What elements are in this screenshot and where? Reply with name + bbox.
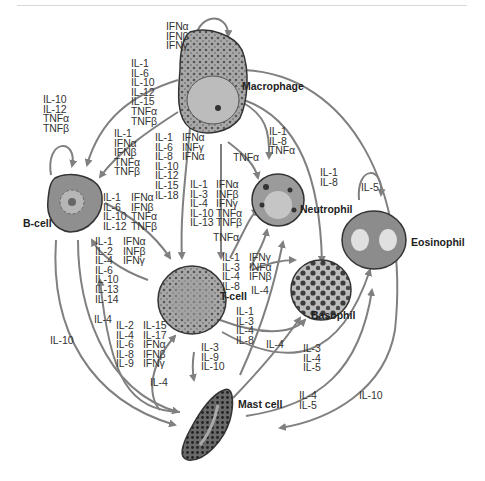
label-mac-to-basophil: IL-1 IL-8: [320, 168, 338, 187]
label-bcell-to-tcell-a: IL-1 IL-6 IL-10 IL-12: [103, 193, 126, 231]
label-mast-to-eos: IL-4 IL-5: [299, 391, 317, 410]
label-bcell-il4: IL-4: [94, 315, 112, 325]
neutrophil-cell: [252, 174, 304, 226]
label-tcell-to-neutrophil-a: IL-1 IL-3 IL-4 IL-10 IL-13: [190, 180, 213, 228]
label-tcell-to-bcell-a: IL-1 IL-2 IL-4 IL-6 IL-10 IL-13 IL-14: [95, 237, 118, 304]
label-tcell-to-neutrophil-b: IFNα INFβ IFNγ TNFα TNFβ: [216, 180, 242, 228]
label-tcell-to-basophil-b: IFNγ INFα IFNβ: [249, 253, 272, 282]
neutrophil-label: Neutrophil: [300, 203, 353, 215]
label-tcell-to-bcell-b: IFNα INFβ IFNγ: [123, 237, 146, 266]
bcell-label: B-cell: [23, 217, 52, 229]
label-tcell-il4: IL-4: [251, 286, 269, 296]
bcell-cell: [48, 175, 102, 232]
mast-cell: [182, 389, 232, 460]
label-mast-il4-a: IL-4: [266, 340, 284, 350]
arrow-bcell-self: [50, 146, 72, 175]
label-eos-to-mast: IL-10: [359, 391, 382, 401]
label-mac-long: IL-1 IL-6 IL-10 IL-12 IL-15 TNFα TNFβ: [131, 59, 157, 126]
label-tcell-to-eos: IL-3 IL-4 IL-5: [303, 344, 321, 373]
label-mac-to-bcell: IL-1 IFNα IFNβ TNFα TNFβ: [114, 129, 140, 177]
label-mast-il4-b: IL-4: [150, 378, 168, 388]
label-tcell-to-basophil-a: IL-1 IL-3 IL-4 IL-8: [222, 253, 240, 291]
label-mast-to-tcell-b: IL-15 IL-17 IFNα IFNβ IFNγ: [143, 321, 166, 369]
label-mac-to-tcell-b: IFNα INFγ IFNα: [182, 133, 205, 162]
eosinophil-cell: [342, 211, 406, 269]
arrow-tcell-to-mast: [193, 352, 194, 380]
eosinophil-label: Eosinophil: [411, 236, 465, 248]
label-bcell-self: IL-10 IL-12 TNFα TNFβ: [43, 95, 69, 133]
label-tcell-to-mast: IL-3 IL-9 IL-10: [201, 343, 224, 372]
tcell-label: T-cell: [220, 290, 247, 302]
label-tcell-to-basophil-c: IL-1 IL-3 IL-4 IL-8: [236, 307, 254, 345]
macrophage-label: Macrophage: [242, 80, 304, 92]
cytokine-network-diagram: Macrophage B-cell T-cell Neutrophil Baso…: [0, 0, 485, 481]
label-bcell-to-tcell-b: IFNα IFNβ TNFα TNFβ: [131, 193, 157, 231]
basophil-label: Basophil: [311, 309, 355, 321]
macrophage-cell: [179, 30, 248, 133]
tcell-cell: [158, 266, 226, 334]
label-mac-to-tcell-a: IL-1 IL-6 IL-8 IL-10 IL-12 IL-15 IL-18: [155, 133, 178, 200]
mast-cell-label: Mast cell: [238, 398, 282, 410]
label-bcell-il10: IL-10: [50, 336, 73, 346]
label-mac-to-neutrophil: IL-1 IL-8 TNFα: [269, 127, 295, 156]
label-tcell-tnf: TNFα: [213, 233, 239, 243]
label-mac-to-neutrophil-tnf: TNFα: [233, 153, 259, 163]
label-eosinophil-self: IL-5: [361, 183, 379, 193]
label-macrophage-self: IFNα IFNβ IFNγ: [166, 22, 189, 51]
label-mast-to-tcell-a: IL-2 IL-4 IL-6 IL-8 IL-9: [116, 321, 134, 369]
